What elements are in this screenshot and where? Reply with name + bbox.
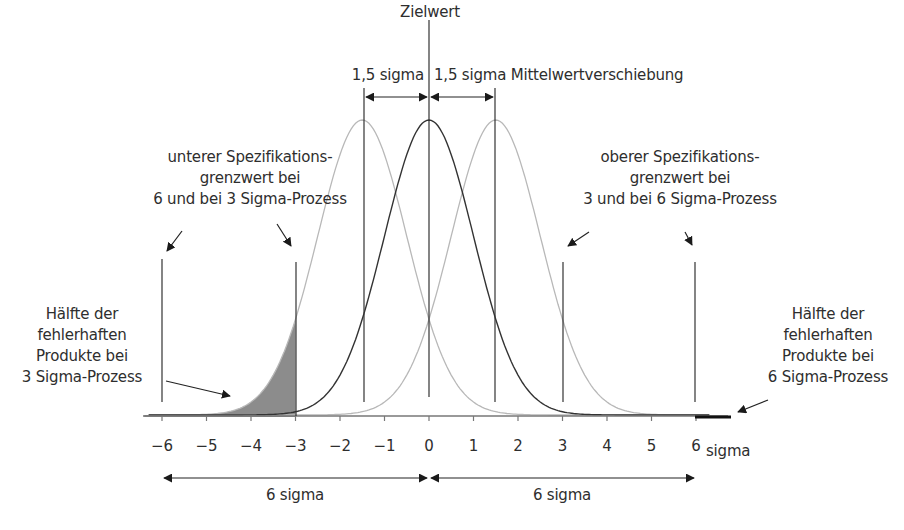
- right-defects-line-3: Produkte bei: [758, 346, 898, 367]
- axis-tick-label: −3: [284, 437, 306, 455]
- axis-tick-label: 0: [424, 437, 434, 455]
- pointer-arrow-plus-6: [685, 232, 692, 245]
- axis-tick-label: −1: [373, 437, 395, 455]
- upper-spec-line-3: 3 und bei 6 Sigma-Prozess: [575, 189, 785, 210]
- pointer-arrow-plus-3: [568, 232, 589, 246]
- target-label: Zielwert: [395, 2, 465, 23]
- axis-tick-label: 1: [469, 437, 479, 455]
- lower-spec-label: unterer Spezifikations- grenzwert bei 6 …: [150, 147, 350, 210]
- bottom-left-span-label: 6 sigma: [245, 485, 345, 506]
- pointer-arrow-minus-6: [167, 231, 182, 251]
- upper-spec-label: oberer Spezifikations- grenzwert bei 3 u…: [575, 147, 785, 210]
- left-defects-line-4: 3 Sigma-Prozess: [12, 367, 152, 388]
- defect-shaded-area: [144, 319, 295, 417]
- axis-unit-label: sigma: [706, 441, 750, 462]
- upper-spec-line-1: oberer Spezifikations-: [575, 147, 785, 168]
- axis-tick-label: −4: [240, 437, 262, 455]
- left-defects-label: Hälfte der fehlerhaften Produkte bei 3 S…: [12, 304, 152, 388]
- left-defects-line-3: Produkte bei: [12, 346, 152, 367]
- axis-tick-label: 4: [602, 437, 612, 455]
- left-shift-label: 1,5 sigma: [344, 65, 424, 86]
- lower-spec-line-1: unterer Spezifikations-: [150, 147, 350, 168]
- lower-spec-line-3: 6 und bei 3 Sigma-Prozess: [150, 189, 350, 210]
- left-defects-line-1: Hälfte der: [12, 304, 152, 325]
- axis-tick-label: 2: [513, 437, 523, 455]
- pointer-arrow-right-defects: [738, 400, 768, 412]
- right-defects-line-4: 6 Sigma-Prozess: [758, 367, 898, 388]
- upper-spec-line-2: grenzwert bei: [575, 168, 785, 189]
- bottom-right-span-label: 6 sigma: [512, 485, 612, 506]
- axis-tick-label: −6: [151, 437, 173, 455]
- axis-tick-label: 3: [558, 437, 568, 455]
- lower-spec-line-2: grenzwert bei: [150, 168, 350, 189]
- axis-tick-label: −2: [329, 437, 351, 455]
- right-defects-label: Hälfte der fehlerhaften Produkte bei 6 S…: [758, 304, 898, 388]
- right-defects-line-2: fehlerhaften: [758, 325, 898, 346]
- axis-tick-label: 6: [691, 437, 701, 455]
- axis-tick-label: −5: [195, 437, 217, 455]
- left-defects-line-2: fehlerhaften: [12, 325, 152, 346]
- right-shift-label: 1,5 sigma Mittelwertverschiebung: [434, 65, 683, 86]
- axis-tick-label: 5: [647, 437, 657, 455]
- pointer-arrow-left-defects: [166, 381, 230, 396]
- right-defects-line-1: Hälfte der: [758, 304, 898, 325]
- pointer-arrow-minus-3: [277, 224, 291, 246]
